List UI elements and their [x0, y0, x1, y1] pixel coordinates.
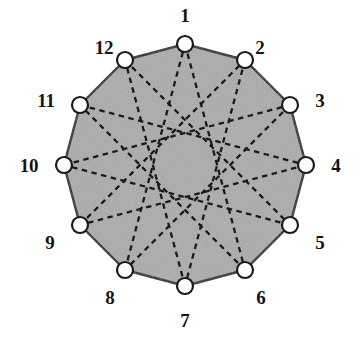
vertex-label-2: 2	[255, 38, 264, 57]
vertex-marker-6[interactable]	[237, 262, 253, 278]
vertex-marker-7[interactable]	[177, 278, 193, 294]
vertex-marker-1[interactable]	[177, 36, 193, 52]
vertex-label-3: 3	[315, 91, 324, 110]
figure-canvas: 123456789101112	[0, 0, 356, 339]
vertex-marker-8[interactable]	[117, 262, 133, 278]
vertex-label-1: 1	[180, 6, 189, 25]
vertex-label-7: 7	[180, 311, 189, 330]
vertex-label-12: 12	[95, 38, 114, 57]
vertex-label-10: 10	[20, 156, 39, 175]
vertex-label-4: 4	[331, 156, 340, 175]
vertex-marker-10[interactable]	[56, 157, 72, 173]
vertex-label-11: 11	[37, 91, 55, 110]
vertex-label-6: 6	[256, 288, 265, 307]
vertex-marker-11[interactable]	[72, 97, 88, 113]
dodecagon-shape	[64, 44, 306, 286]
vertex-marker-2[interactable]	[237, 52, 253, 68]
vertex-marker-5[interactable]	[282, 217, 298, 233]
vertex-label-9: 9	[45, 233, 54, 252]
vertex-label-8: 8	[105, 288, 114, 307]
vertex-marker-4[interactable]	[298, 157, 314, 173]
star-polygon-diagram	[0, 0, 356, 339]
vertex-label-5: 5	[315, 233, 324, 252]
vertex-marker-3[interactable]	[282, 97, 298, 113]
vertex-marker-12[interactable]	[117, 52, 133, 68]
vertex-marker-9[interactable]	[72, 217, 88, 233]
